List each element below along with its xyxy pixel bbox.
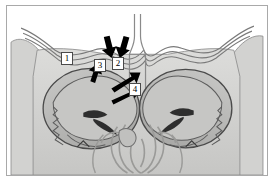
maxillary-sinus-pocket: [119, 129, 136, 147]
orbit-right: [140, 69, 232, 147]
figure-page: 1 2 3 4: [0, 0, 274, 182]
figure-frame: 1 2 3 4: [6, 5, 268, 176]
label-chip-1[interactable]: 1: [61, 52, 73, 65]
label-chip-3[interactable]: 3: [94, 59, 106, 72]
label-chip-4[interactable]: 4: [129, 83, 141, 96]
label-chip-2[interactable]: 2: [112, 57, 124, 70]
